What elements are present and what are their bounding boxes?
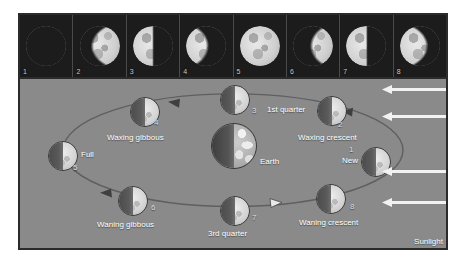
orbit-moon-label-full: Full [81,150,94,159]
film-cell-number: 8 [397,68,401,76]
earth-shadow [212,124,234,168]
moon-photo-6 [293,26,333,66]
moon-shadow [49,142,63,170]
film-cell-number: 7 [343,68,347,76]
orbit-moon-number-7: 7 [252,213,256,222]
orbit-moon-3 [220,85,250,115]
moon-photo-3 [133,26,173,66]
moon-photo-4 [186,26,226,66]
moon-shadow [80,26,120,66]
orbit-arrowhead-top [168,99,180,108]
film-cell-6: 6 [287,15,340,77]
orbit-moon-number-2: 2 [338,120,342,129]
orbit-arrowhead-left [100,189,112,198]
moon-shadow [131,98,145,126]
orbit-moon-label-waxing-crescent: Waxing crescent [298,133,357,142]
orbit-moon-number-1: 1 [349,145,353,154]
film-cell-5: 5 [234,15,287,77]
orbit-moon-label-waning-gibbous: Waning gibbous [97,220,154,229]
film-cell-number: 6 [290,68,294,76]
film-cell-2: 2 [73,15,126,77]
moon-shadow [221,86,235,114]
orbit-moon-8 [316,184,346,214]
moon-photo-7 [346,26,386,66]
film-cell-number: 3 [130,68,134,76]
moon-shadow [221,197,235,225]
film-cell-1: 1 [20,15,73,77]
film-cell-number: 5 [237,68,241,76]
moon-shadow [26,26,66,66]
orbit-moon-2 [317,96,347,126]
moon-photo-5 [240,26,280,66]
moon-photo-8 [400,26,440,66]
moon-shadow [318,97,332,125]
film-cell-3: 3 [127,15,180,77]
moon-shadow [186,26,226,66]
sunlight-arrow-1 [382,85,446,94]
orbit-moon-label-new: New [342,156,358,165]
orbit-moon-number-3: 3 [252,106,256,115]
orbit-moon-label-3rd-quarter: 3rd quarter [208,229,247,238]
moon-shadow [293,26,333,66]
moon-shadow [317,185,331,213]
moon-photo-2 [80,26,120,66]
orbit-moon-7 [220,196,250,226]
moon-shadow [133,26,173,66]
moon-shadow [346,26,386,66]
film-cell-8: 8 [394,15,446,77]
orbit-moon-number-8: 8 [350,202,354,211]
orbit-moon-number-6: 6 [151,203,155,212]
orbit-moon-label-waxing-gibbous: Waxing gibbous [107,133,164,142]
sunlight-arrow-4 [382,198,446,207]
film-cell-number: 4 [183,68,187,76]
moon-phase-photo-strip: 1 2 3 4 [20,15,446,79]
film-cell-number: 1 [23,68,27,76]
moon-shadow [240,26,280,66]
earth-label: Earth [260,157,279,166]
moon-phases-figure: 1 2 3 4 [18,13,448,250]
film-cell-7: 7 [340,15,393,77]
film-cell-4: 4 [180,15,233,77]
orbit-moon-6 [118,186,148,216]
orbit-moon-number-4: 4 [154,118,158,127]
moon-shadow [400,26,440,66]
orbit-moon-label-1st-quarter: 1st quarter [267,105,305,114]
sunlight-arrow-2 [382,112,446,121]
orbit-moon-label-waning-crescent: Waning crescent [299,218,358,227]
moon-photo-1 [26,26,66,66]
sunlight-arrow-3 [382,167,446,176]
orbit-moon-number-5: 5 [73,163,77,172]
moon-shadow [119,187,133,215]
moon-shadow [362,148,376,176]
earth-body [211,123,257,169]
orbit-diagram: 3 1st quarter 4 Waxing gibbous Full 5 6 … [20,79,446,248]
sunlight-label: Sunlight [414,237,443,246]
orbit-arrowhead-bottom [270,199,282,208]
film-cell-number: 2 [76,68,80,76]
